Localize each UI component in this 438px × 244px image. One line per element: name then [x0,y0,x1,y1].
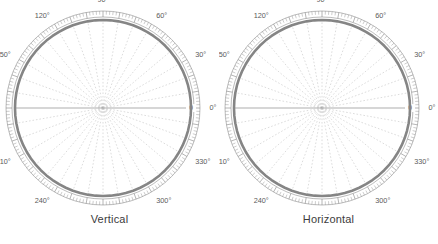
grid-spoke [103,41,160,108]
degree-tick-major [55,187,58,192]
degree-tick-minor [194,85,197,86]
degree-tick-minor [385,36,387,39]
degree-tick-minor [126,14,127,17]
degree-tick-minor [80,14,81,17]
degree-tick-minor [49,28,51,31]
polar-plot-vertical: 0°30°60°90°120°150°180°210°240°270°300°3… [0,0,219,215]
degree-tick-minor [7,95,11,96]
degree-tick-major [412,91,418,92]
degree-tick-minor [158,184,160,187]
degree-tick-major [408,75,414,77]
degree-tick-minor [406,65,409,67]
degree-tick-minor [363,21,365,24]
degree-tick-minor [276,22,278,25]
degree-tick-major [274,24,277,29]
degree-tick-minor [8,127,12,128]
grid-spoke [73,25,103,108]
degree-tick-minor [271,26,273,29]
angle-tick-label: 240° [254,196,269,205]
degree-tick-minor [230,78,233,79]
grid-spoke [292,25,322,108]
degree-tick-minor [185,62,188,64]
degree-tick-minor [399,160,402,162]
degree-tick-minor [235,149,238,151]
degree-tick-minor [374,28,376,31]
degree-tick-minor [236,152,239,154]
degree-tick-major [305,12,306,18]
degree-tick-minor [228,131,231,132]
radiation-pattern-figure: 0°30°60°90°120°150°180°210°240°270°300°3… [0,0,438,244]
degree-tick-minor [76,15,77,18]
caption-horizontal: Horizontal [219,213,438,225]
degree-tick-minor [57,22,59,25]
degree-tick-minor [413,85,416,86]
degree-tick-major [29,166,34,170]
degree-tick-major [289,194,291,200]
degree-tick-minor [257,177,259,180]
degree-tick-minor [188,69,191,70]
grid-spoke [265,41,322,108]
angle-tick-label: 330° [414,157,429,166]
grid-spoke [322,108,389,165]
degree-tick-minor [244,163,247,165]
degree-tick-minor [283,193,284,196]
degree-tick-minor [194,131,197,132]
degree-tick-minor [252,41,255,44]
degree-tick-minor [38,36,40,39]
degree-tick-minor [141,193,142,196]
degree-tick-minor [177,166,180,168]
degree-tick-minor [192,78,195,79]
degree-tick-major [182,60,187,63]
degree-tick-minor [17,62,20,64]
degree-tick-minor [286,195,287,198]
angle-tick-label: 120° [35,11,50,20]
degree-tick-minor [46,184,48,187]
polar-chart-horizontal-svg: 0°30°60°90°120°150°180°210°240°270°300°3… [219,0,438,215]
degree-tick-minor [387,175,390,178]
degree-tick-minor [132,197,133,200]
degree-tick-major [338,12,339,18]
degree-tick-minor [23,54,26,56]
degree-tick-major [12,139,18,141]
degree-tick-minor [299,199,300,202]
degree-tick-minor [233,69,236,70]
grid-spoke [103,108,170,165]
grid-spoke [292,108,322,191]
degree-tick-major [134,17,136,23]
grid-spoke [103,108,133,191]
angle-tick-label: 30° [195,50,206,59]
degree-tick-minor [265,30,267,33]
polar-chart-vertical-svg: 0°30°60°90°120°150°180°210°240°270°300°3… [0,0,219,215]
degree-tick-minor [27,48,30,50]
degree-tick-minor [152,26,154,29]
degree-tick-minor [182,157,185,159]
degree-tick-minor [413,131,416,132]
degree-tick-minor [185,152,188,154]
angle-tick-label: 150° [219,50,230,59]
angle-tick-label: 210° [0,157,11,166]
panel-horizontal: 0°30°60°90°120°150°180°210°240°270°300°3… [219,0,438,244]
degree-tick-minor [144,21,146,24]
degree-tick-minor [268,185,270,188]
degree-tick-minor [172,171,175,173]
angle-tick-label: 120° [254,11,269,20]
degree-tick-minor [404,62,407,64]
degree-tick-major [173,46,178,50]
degree-tick-minor [16,149,19,151]
angle-tick-label: 240° [35,196,50,205]
degree-tick-major [193,91,199,92]
degree-tick-minor [411,137,414,138]
degree-tick-minor [64,19,65,22]
panel-vertical: 0°30°60°90°120°150°180°210°240°270°300°3… [0,0,219,244]
grid-spoke [103,78,186,108]
degree-tick-minor [348,198,349,201]
degree-tick-minor [187,149,190,151]
degree-tick-minor [396,48,399,50]
degree-tick-minor [283,19,284,22]
degree-tick-minor [60,21,62,24]
degree-tick-minor [144,192,146,195]
degree-tick-major [193,124,199,125]
degree-tick-minor [80,199,81,202]
degree-tick-minor [389,173,392,176]
degree-tick-major [19,154,24,157]
